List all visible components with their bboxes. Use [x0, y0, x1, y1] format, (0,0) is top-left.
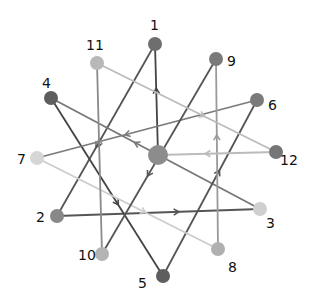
node-8 — [211, 242, 225, 256]
node-10 — [95, 247, 109, 261]
node-label-7: 7 — [17, 151, 26, 167]
node-5 — [156, 269, 170, 283]
edge-11-to-12 — [97, 63, 276, 152]
node-label-5: 5 — [138, 275, 147, 291]
node-9 — [209, 52, 223, 66]
edge-2-to-3 — [57, 209, 260, 216]
edge-line — [97, 63, 276, 152]
node-label-9: 9 — [227, 53, 236, 69]
node-label-8: 8 — [228, 259, 237, 275]
edge-line — [155, 44, 158, 155]
node-7 — [30, 151, 44, 165]
node-label-3: 3 — [266, 215, 275, 231]
node-label-6: 6 — [268, 97, 277, 113]
edge-10-to-11 — [96, 63, 102, 254]
node-label-4: 4 — [42, 75, 51, 91]
node-label-2: 2 — [36, 209, 45, 225]
edge-line — [57, 209, 260, 216]
node-label-1: 1 — [150, 17, 159, 33]
node-label-12: 12 — [280, 152, 298, 168]
node-label-11: 11 — [86, 37, 104, 53]
directed-graph-diagram: 123456789101112 — [0, 0, 319, 303]
node-3 — [253, 202, 267, 216]
node-11 — [90, 56, 104, 70]
node-label-10: 10 — [78, 247, 96, 263]
node-2 — [50, 209, 64, 223]
center-node — [148, 145, 168, 165]
edge-c-to-1 — [153, 44, 159, 155]
edge-line — [97, 63, 102, 254]
node-4 — [44, 91, 58, 105]
node-6 — [250, 93, 264, 107]
node-1 — [148, 37, 162, 51]
